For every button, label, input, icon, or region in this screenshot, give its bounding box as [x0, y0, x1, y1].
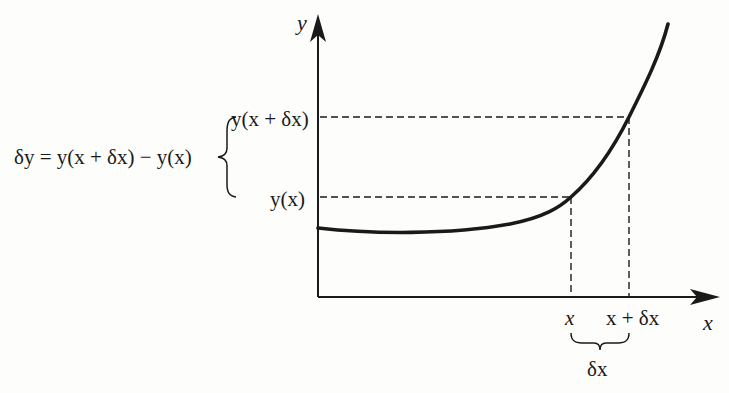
- derivative-diagram: y x y(x + δx) y(x) δy = y(x + δx) − y(x)…: [0, 0, 729, 393]
- dx-label: δx: [587, 357, 608, 381]
- y-tick-y-x-plus-dx: y(x + δx): [231, 107, 309, 131]
- function-curve: [318, 24, 668, 232]
- dx-brace: [571, 333, 629, 350]
- dy-equation: δy = y(x + δx) − y(x): [14, 145, 192, 169]
- x-axis-label: x: [702, 310, 713, 335]
- x-tick-x-plus-dx: x + δx: [606, 306, 660, 330]
- x-tick-x: x: [564, 306, 575, 330]
- y-axis-label: y: [295, 10, 307, 35]
- y-tick-y-x: y(x): [270, 187, 305, 211]
